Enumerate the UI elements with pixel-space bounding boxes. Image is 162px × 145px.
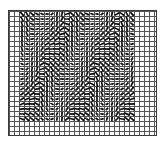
- screenshot-root: [0, 0, 162, 145]
- plot-frame: [8, 10, 157, 136]
- quiver-svg: [9, 11, 156, 135]
- quiver-field: [9, 11, 156, 135]
